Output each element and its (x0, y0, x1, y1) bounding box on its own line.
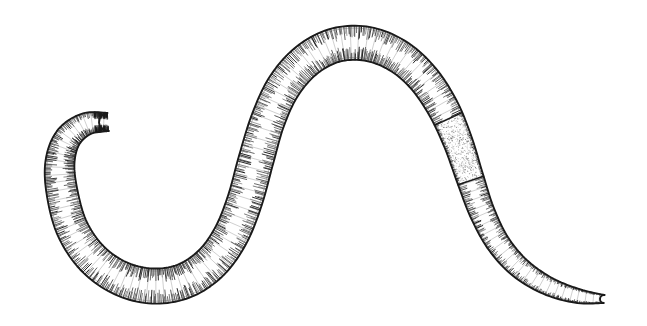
illustration-canvas: Earthworm line illustration (0, 0, 647, 326)
earthworm-illustration (0, 0, 647, 326)
